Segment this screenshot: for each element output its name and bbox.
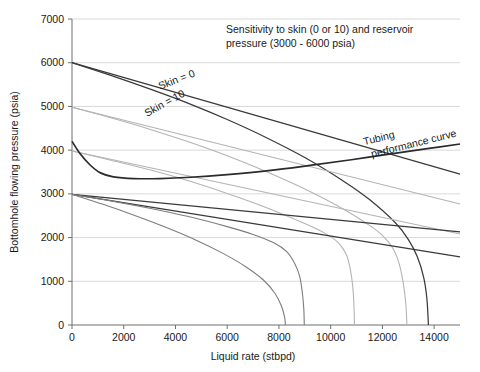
y-tick-label-3000: 3000 [41, 187, 65, 199]
y-tick-label-6000: 6000 [41, 56, 65, 68]
x-tick-label-4000: 4000 [164, 331, 188, 343]
chart-figure: 02000400060008000100001200014000 0100020… [0, 0, 480, 372]
chart-title-line2: pressure (3000 - 6000 psia) [226, 37, 355, 49]
x-tick-label-6000: 6000 [216, 331, 240, 343]
x-tick-label-2000: 2000 [112, 331, 136, 343]
x-tick-label-0: 0 [69, 331, 75, 343]
x-axis-title: Liquid rate (stbpd) [211, 350, 296, 362]
y-tick-label-2000: 2000 [41, 231, 65, 243]
y-tick-label-0: 0 [58, 319, 64, 331]
y-tick-label-1000: 1000 [41, 275, 65, 287]
y-axis-title: Bottomhole flowing pressure (psia) [8, 91, 20, 253]
y-tick-label-4000: 4000 [41, 144, 65, 156]
x-tick-label-10000: 10000 [316, 331, 345, 343]
y-tick-label-5000: 5000 [41, 100, 65, 112]
y-tick-label-7000: 7000 [41, 13, 65, 25]
chart-title-line1: Sensitivity to skin (0 or 10) and reserv… [226, 23, 414, 35]
nodal-analysis-chart: 02000400060008000100001200014000 0100020… [0, 0, 480, 372]
x-tick-label-14000: 14000 [420, 331, 449, 343]
x-tick-label-8000: 8000 [267, 331, 291, 343]
x-tick-label-12000: 12000 [368, 331, 397, 343]
